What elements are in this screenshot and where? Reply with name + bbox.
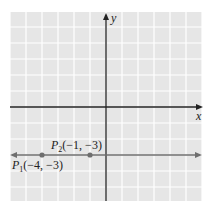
point-label: P2(−1, −3)	[50, 138, 102, 154]
y-axis-label: y	[110, 11, 117, 25]
x-axis-label: x	[195, 109, 202, 123]
coordinate-plane-chart: P1(−4, −3)P2(−1, −3) x y	[0, 0, 210, 209]
data-point	[39, 152, 44, 157]
data-point	[87, 152, 92, 157]
point-label: P1(−4, −3)	[11, 158, 63, 174]
